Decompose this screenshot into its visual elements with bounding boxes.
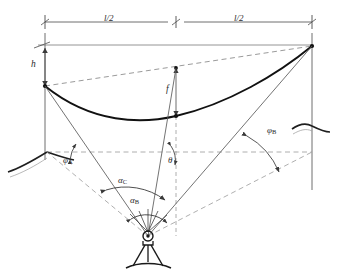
theta-symbol: θ xyxy=(168,155,172,165)
dimension-line-group xyxy=(41,15,316,29)
sight-line-to-right-base-dashed xyxy=(148,152,312,236)
tripod-ground-line xyxy=(126,264,171,269)
phi-b-label: φB xyxy=(267,126,276,136)
ray-4 xyxy=(148,211,158,232)
theta-label: θ xyxy=(168,156,172,166)
left-ground-hatch xyxy=(10,158,47,177)
catenary-cable xyxy=(45,46,312,120)
angle-arcs-group xyxy=(70,136,279,223)
tripod-leg-right xyxy=(151,245,163,266)
phi-a-subscript: A xyxy=(68,158,73,165)
diagram-canvas xyxy=(0,0,351,274)
chord-group xyxy=(45,46,312,86)
alpha-c-subscript: C xyxy=(123,178,127,185)
anchor-chord-dashed xyxy=(45,46,312,86)
right-ground-hatch xyxy=(293,130,312,134)
instrument-center xyxy=(146,234,149,237)
ground-surface-group xyxy=(8,124,330,177)
height-dimension-group xyxy=(42,48,48,86)
cable-span-survey-diagram: l/2 l/2 h f φA φB αC αB θ xyxy=(0,0,351,274)
phi-a-label: φA xyxy=(63,156,73,166)
alpha-c-label: αC xyxy=(118,176,127,186)
right-span-label: l/2 xyxy=(234,14,244,23)
phi-b-subscript: B xyxy=(272,128,276,135)
cable-lowest-point-node xyxy=(174,114,178,118)
alpha-b-subscript: B xyxy=(135,198,139,205)
alpha-b-label: αB xyxy=(130,196,139,206)
sight-line-to-right-anchor xyxy=(148,46,312,236)
anchor-nodes-group xyxy=(43,44,314,118)
height-arrow-top xyxy=(42,48,48,53)
phi-b-arc xyxy=(247,136,279,172)
sight-line-to-left-anchor xyxy=(45,86,148,236)
left-span-label: l/2 xyxy=(104,14,114,23)
sag-label: f xyxy=(166,85,169,95)
tripod-leg-left xyxy=(133,245,145,266)
height-label: h xyxy=(31,60,36,70)
top-reference-level-group xyxy=(34,42,312,48)
